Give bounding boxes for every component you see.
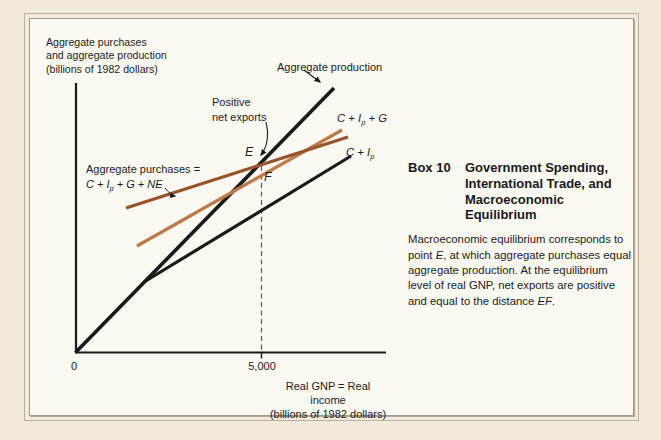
box10-number: Box 10 xyxy=(408,160,465,223)
aggregate-production-line xyxy=(76,88,335,353)
x-tick-5000-label: 5,000 xyxy=(246,359,278,373)
point-e-label: E xyxy=(245,145,253,159)
y-axis-label: Aggregate purchases and aggregate produc… xyxy=(46,36,167,76)
figure-page: Aggregate purchases and aggregate produc… xyxy=(0,0,661,440)
point-f-label: F xyxy=(264,170,272,184)
box10-body: Macroeconomic equilibrium corresponds to… xyxy=(408,232,636,309)
box10-header: Box 10 Government Spending, Internationa… xyxy=(408,160,636,223)
c-ip-g-line-label: C + Ip + G xyxy=(337,111,387,130)
net-exports-pointer-arrow xyxy=(261,122,268,155)
box10-text-block: Box 10 Government Spending, Internationa… xyxy=(408,160,636,309)
positive-net-exports-label: Positive net exports xyxy=(212,95,266,125)
box10-title: Government Spending, International Trade… xyxy=(465,160,636,223)
x-axis-label: Real GNP = Real income (billions of 1982… xyxy=(267,379,389,421)
origin-tick-label: 0 xyxy=(71,359,77,373)
c-ip-line-label: C + Ip xyxy=(346,145,374,164)
aggregate-purchases-line-label: Aggregate purchases = C + Ip + G + NE xyxy=(86,162,200,196)
aggregate-production-label: Aggregate production xyxy=(277,60,382,74)
